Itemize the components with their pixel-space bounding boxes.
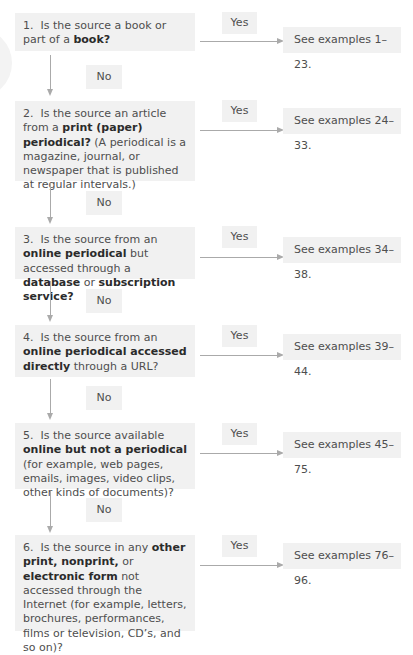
question-number: 6. [23,541,34,554]
yes-label-2: Yes [222,100,257,122]
yes-arrow-6 [200,565,278,566]
result-box-2: See examples 24–33. [283,108,401,134]
no-label-1: No [86,65,122,89]
no-arrow-4 [50,379,51,414]
question-text: Is the source available online but not a… [23,429,187,499]
question-box-2: 2. Is the source an article from a print… [15,101,195,181]
no-label-4: No [86,386,122,410]
no-label-5: No [86,498,122,522]
question-box-1: 1. Is the source a book or part of a boo… [15,13,195,51]
yes-arrow-5 [200,453,278,454]
no-arrow-3 [50,281,51,316]
question-number: 3. [23,233,34,246]
yes-label-1: Yes [222,12,257,34]
question-number: 5. [23,429,34,442]
question-number: 2. [23,107,34,120]
yes-arrow-4 [200,355,278,356]
question-text: Is the source an article from a print (p… [23,107,186,191]
no-label-2: No [86,191,122,215]
question-text: Is the source in any other print, nonpri… [23,541,186,654]
no-arrow-5 [50,491,51,527]
question-text: Is the source a book or part of a book? [23,19,166,46]
result-box-3: See examples 34–38. [283,237,401,263]
question-box-3: 3. Is the source from an online periodic… [15,227,195,279]
result-box-1: See examples 1–23. [283,27,401,53]
question-box-4: 4. Is the source from an online periodic… [15,325,195,377]
yes-label-5: Yes [222,423,257,445]
question-box-5: 5. Is the source available online but no… [15,423,195,489]
no-arrow-1 [50,55,51,90]
question-text: Is the source from an online periodical … [23,331,187,373]
result-box-6: See examples 76–96. [283,543,401,569]
yes-label-6: Yes [222,535,257,557]
yes-arrow-2 [200,130,278,131]
yes-arrow-3 [200,257,278,258]
result-box-4: See examples 39–44. [283,334,401,360]
yes-label-3: Yes [222,226,257,248]
result-box-5: See examples 45–75. [283,432,401,458]
decorative-circle [0,28,12,98]
question-number: 4. [23,331,34,344]
question-box-6: 6. Is the source in any other print, non… [15,535,195,631]
question-number: 1. [23,19,34,32]
yes-arrow-1 [200,41,278,42]
yes-label-4: Yes [222,325,257,347]
no-arrow-2 [50,183,51,218]
no-label-3: No [86,289,122,313]
